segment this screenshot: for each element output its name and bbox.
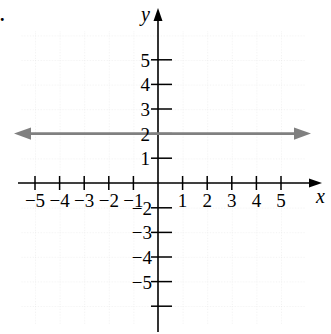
coordinate-plane-graph bbox=[0, 0, 331, 334]
x-axis-label: x bbox=[316, 186, 325, 206]
x-tick-label-5: 5 bbox=[276, 191, 286, 210]
x-tick-label-neg-5: −5 bbox=[25, 191, 45, 210]
grid-lines bbox=[21, 31, 305, 324]
x-tick-label-2: 2 bbox=[202, 191, 212, 210]
y-tick-label-1: 1 bbox=[141, 149, 151, 168]
y-tick-label-2: 2 bbox=[141, 124, 151, 143]
y-tick-label-neg-5: −5 bbox=[132, 272, 152, 291]
x-tick-label-1: 1 bbox=[178, 191, 188, 210]
coordinate-plane-figure: . bbox=[0, 0, 331, 334]
x-tick-label-neg-2: −2 bbox=[99, 191, 119, 210]
x-tick-label-neg-1: −1 bbox=[123, 191, 143, 210]
y-tick-label-5: 5 bbox=[141, 50, 151, 69]
y-tick-label-4: 4 bbox=[141, 75, 151, 94]
y-tick-label-neg-3: −3 bbox=[132, 223, 152, 242]
x-tick-label-neg-3: −3 bbox=[74, 191, 94, 210]
y-tick-label-neg-4: −4 bbox=[132, 248, 152, 267]
y-tick-label-3: 3 bbox=[141, 100, 151, 119]
x-tick-label-4: 4 bbox=[252, 191, 262, 210]
x-tick-label-3: 3 bbox=[227, 191, 237, 210]
x-tick-label-neg-4: −4 bbox=[49, 191, 69, 210]
y-axis-arrowhead bbox=[154, 8, 163, 21]
y-axis-label: y bbox=[141, 4, 150, 24]
